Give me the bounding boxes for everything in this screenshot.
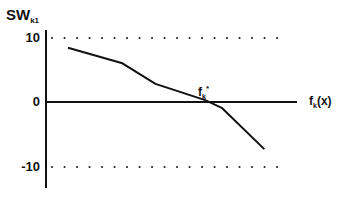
- y-axis-label-main: SW: [6, 6, 30, 23]
- y-axis-label-sub: k1: [30, 16, 39, 25]
- chart-canvas: [0, 0, 349, 197]
- x-axis-label-suffix: (x): [317, 94, 332, 108]
- annotation-sup: *: [206, 84, 209, 93]
- series-line-sw-k1: [68, 48, 264, 149]
- y-tick-minus-10: -10: [10, 159, 40, 174]
- zero-crossing-annotation: fk*: [198, 84, 209, 100]
- annotation-sub: k: [202, 93, 206, 100]
- y-tick-10: 10: [10, 30, 40, 45]
- x-axis-label: fk(x): [309, 94, 332, 109]
- y-axis-label: SWk1: [6, 6, 39, 23]
- y-tick-0: 0: [10, 94, 40, 109]
